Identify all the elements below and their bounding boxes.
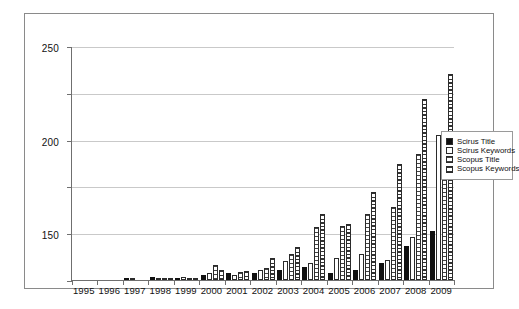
bar <box>289 254 294 280</box>
bar <box>391 207 396 280</box>
bar <box>385 260 390 280</box>
bar <box>252 273 257 280</box>
bar <box>365 214 370 280</box>
y-axis-tick-label: 200 <box>42 136 59 147</box>
bar <box>244 271 249 280</box>
bar <box>320 214 325 280</box>
bar <box>430 231 435 280</box>
bar <box>130 278 135 280</box>
bar <box>219 270 224 280</box>
bar <box>334 258 339 280</box>
bar-group <box>327 47 352 280</box>
bar <box>193 278 198 280</box>
bar <box>207 273 212 280</box>
x-axis-tick-label: 1999 <box>173 285 199 296</box>
bar <box>270 258 275 280</box>
legend-item-label: Scirus Keywords <box>457 147 515 155</box>
plot-area: 050100150200250 <box>71 47 454 281</box>
chart-figure-frame: 050100150200250 199519961997199819992000… <box>24 13 494 289</box>
x-axis-tick-label: 2006 <box>352 285 378 296</box>
bar <box>359 254 364 280</box>
bar <box>258 270 263 280</box>
x-axis-tick-label: 1996 <box>97 285 123 296</box>
bar <box>181 277 186 280</box>
bar <box>264 268 269 280</box>
bar <box>422 99 427 280</box>
bar <box>346 224 351 280</box>
bar-group <box>123 47 148 280</box>
bar <box>232 275 237 280</box>
bar <box>168 278 173 280</box>
x-axis-labels: 1995199619971998199920002001200220032004… <box>71 285 454 296</box>
legend-swatch <box>446 166 453 173</box>
bar <box>213 265 218 280</box>
x-axis-tick-label: 2001 <box>224 285 250 296</box>
legend-swatch <box>446 156 453 163</box>
chart-legend: Scirus TitleScirus KeywordsScopus TitleS… <box>441 131 513 180</box>
x-axis-tick-label: 1998 <box>148 285 174 296</box>
bar-group <box>72 47 97 280</box>
bar-group <box>403 47 428 280</box>
bar-group <box>276 47 301 280</box>
bar <box>295 247 300 280</box>
x-axis-tick-label: 2007 <box>377 285 403 296</box>
bar <box>302 267 307 280</box>
bar <box>226 273 231 280</box>
bar <box>371 192 376 280</box>
legend-item-label: Scopus Title <box>457 156 499 164</box>
legend-item-label: Scopus Keywords <box>457 165 519 173</box>
bar-group <box>301 47 326 280</box>
bar-group <box>225 47 250 280</box>
chart-screenshot: 050100150200250 199519961997199819992000… <box>0 0 519 309</box>
legend-swatch <box>446 138 453 145</box>
legend-swatch <box>446 147 453 154</box>
x-axis-tick <box>454 280 455 285</box>
bar <box>150 277 155 280</box>
x-axis-tick-label: 2005 <box>326 285 352 296</box>
bar-group <box>378 47 403 280</box>
bar-group <box>148 47 173 280</box>
bar <box>175 278 180 280</box>
legend-item[interactable]: Scopus Title <box>446 156 509 164</box>
x-axis-tick-label: 1995 <box>71 285 97 296</box>
bar <box>162 278 167 280</box>
legend-item[interactable]: Scirus Keywords <box>446 147 509 155</box>
bar <box>416 154 421 280</box>
bar <box>283 261 288 280</box>
x-axis-tick-label: 2003 <box>275 285 301 296</box>
x-axis-tick-label: 1997 <box>122 285 148 296</box>
y-axis-tick-label: 250 <box>42 43 59 54</box>
x-axis-tick-label: 2009 <box>428 285 454 296</box>
bar <box>404 246 409 280</box>
legend-item[interactable]: Scirus Title <box>446 138 509 146</box>
bar <box>410 237 415 280</box>
bar <box>353 270 358 280</box>
x-axis-tick-label: 2008 <box>403 285 429 296</box>
bar <box>397 164 402 280</box>
bar <box>201 275 206 280</box>
bar-groups <box>72 47 454 280</box>
bar <box>238 272 243 280</box>
legend-item[interactable]: Scopus Keywords <box>446 165 509 173</box>
x-axis-tick-label: 2004 <box>301 285 327 296</box>
bar <box>156 278 161 280</box>
bar <box>124 278 129 280</box>
x-axis-tick-label: 2000 <box>199 285 225 296</box>
bar <box>187 278 192 280</box>
bar-group <box>174 47 199 280</box>
bar <box>314 227 319 280</box>
bar <box>340 226 345 280</box>
bar <box>308 263 313 280</box>
bar-group <box>250 47 275 280</box>
bar <box>379 263 384 280</box>
bar <box>328 273 333 280</box>
y-axis-tick-label: 150 <box>42 230 59 241</box>
bar-group <box>199 47 224 280</box>
x-axis-tick-label: 2002 <box>250 285 276 296</box>
legend-item-label: Scirus Title <box>457 138 495 146</box>
bar-group <box>97 47 122 280</box>
bar <box>277 270 282 280</box>
bar-group <box>352 47 377 280</box>
